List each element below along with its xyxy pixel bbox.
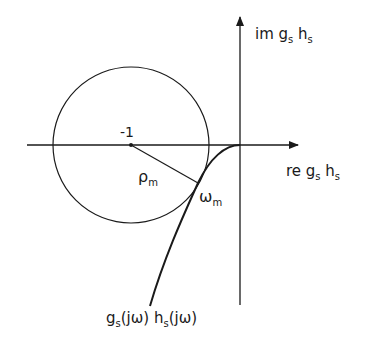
nyquist-diagram: -1 im gs hs re gs hs ρm ωm gs(jω) hs(jω) [0, 0, 366, 358]
nyquist-curve [150, 145, 240, 306]
curve-label: gs(jω) hs(jω) [106, 309, 197, 329]
real-axis-label: re gs hs [286, 162, 340, 182]
tangent-frequency-label: ωm [199, 187, 222, 208]
critical-point-label: -1 [120, 124, 134, 140]
imaginary-axis-label: im gs hs [255, 25, 313, 45]
radius-label: ρm [138, 167, 158, 188]
